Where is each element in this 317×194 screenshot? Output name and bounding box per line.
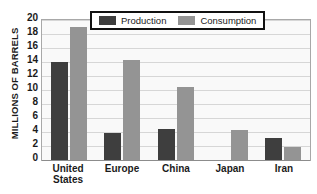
legend-item-production: Production bbox=[99, 15, 166, 26]
x-axis-tick-label: China bbox=[149, 163, 203, 185]
bar-production[interactable] bbox=[104, 133, 121, 160]
bars-layer bbox=[42, 20, 310, 160]
x-axis-tick-label: Japan bbox=[203, 163, 257, 185]
y-axis-tick-label: 0 bbox=[18, 153, 38, 163]
legend-label-production: Production bbox=[121, 15, 166, 26]
bar-group bbox=[42, 20, 96, 160]
bar-group bbox=[256, 20, 310, 160]
bar-production[interactable] bbox=[51, 62, 68, 160]
y-axis-tick-label: 20 bbox=[18, 13, 38, 23]
legend-item-consumption: Consumption bbox=[178, 15, 256, 26]
y-axis-tick-label: 12 bbox=[18, 69, 38, 79]
bar-consumption[interactable] bbox=[177, 87, 194, 160]
legend-swatch-consumption-icon bbox=[178, 16, 195, 25]
y-axis-tick-labels: 20181614121086420 bbox=[18, 17, 38, 163]
y-axis-tick-label: 6 bbox=[18, 111, 38, 121]
bar-group bbox=[203, 20, 257, 160]
legend-label-consumption: Consumption bbox=[200, 15, 256, 26]
y-axis-tick-label: 2 bbox=[18, 139, 38, 149]
y-axis-tick-label: 16 bbox=[18, 41, 38, 51]
bar-production[interactable] bbox=[265, 138, 282, 160]
y-axis-tick-label: 10 bbox=[18, 83, 38, 93]
bar-production[interactable] bbox=[158, 129, 175, 161]
x-axis-tick-labels: UnitedStatesEuropeChinaJapanIran bbox=[41, 163, 311, 185]
x-axis-tick-label: UnitedStates bbox=[41, 163, 95, 185]
chart-title-clipped bbox=[0, 0, 317, 6]
chart-legend: Production Consumption bbox=[90, 11, 265, 30]
bar-consumption[interactable] bbox=[231, 130, 248, 160]
bar-consumption[interactable] bbox=[123, 60, 140, 160]
x-axis-tick-label: Europe bbox=[95, 163, 149, 185]
y-axis-tick-label: 8 bbox=[18, 97, 38, 107]
gridline bbox=[42, 160, 310, 161]
y-axis-tick-label: 4 bbox=[18, 125, 38, 135]
legend-swatch-production-icon bbox=[99, 16, 116, 25]
bar-group bbox=[149, 20, 203, 160]
bar-group bbox=[96, 20, 150, 160]
bar-chart: MILLIONS OF BARRELS 20181614121086420 Pr… bbox=[0, 0, 317, 194]
y-axis-tick-label: 18 bbox=[18, 27, 38, 37]
x-axis-tick-label: Iran bbox=[257, 163, 311, 185]
y-axis-tick-label: 14 bbox=[18, 55, 38, 65]
bar-consumption[interactable] bbox=[70, 27, 87, 160]
bar-consumption[interactable] bbox=[284, 147, 301, 160]
plot-area bbox=[41, 19, 311, 161]
